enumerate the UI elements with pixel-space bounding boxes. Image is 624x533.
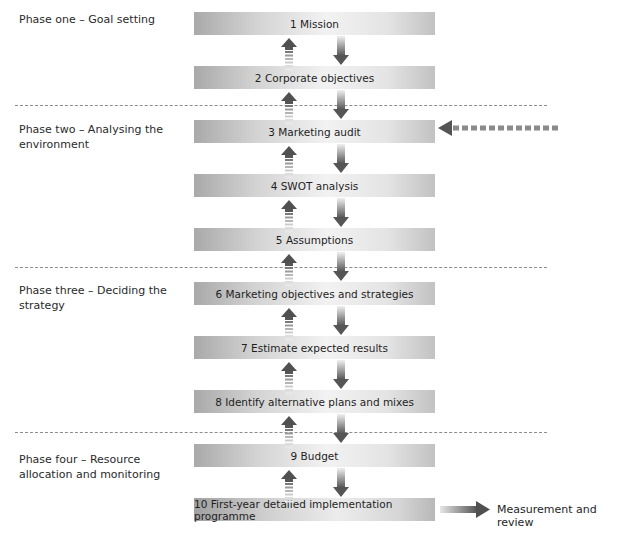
step-box-assumptions: 5 Assumptions	[194, 228, 435, 251]
down-arrow-icon	[333, 144, 349, 173]
step-label: 8 Identify alternative plans and mixes	[215, 396, 414, 408]
step-box-swot-analysis: 4 SWOT analysis	[194, 174, 435, 197]
phase-separator	[15, 432, 547, 433]
step-label: 3 Marketing audit	[268, 126, 360, 138]
step-box-marketing-audit: 3 Marketing audit	[194, 120, 435, 143]
down-arrow-icon	[333, 414, 349, 443]
step-label: 5 Assumptions	[276, 234, 353, 246]
step-box-marketing-objectives: 6 Marketing objectives and strategies	[194, 282, 435, 305]
phase-label-two: Phase two – Analysing the environment	[19, 122, 169, 152]
step-label: 7 Estimate expected results	[241, 342, 388, 354]
down-arrow-icon	[333, 306, 349, 335]
phase-separator	[15, 105, 547, 106]
feedback-arrowhead-icon	[438, 120, 452, 136]
step-box-implementation-programme: 10 First-year detailed implementation pr…	[194, 498, 435, 521]
output-arrow-shaft	[440, 506, 478, 513]
step-label: 9 Budget	[291, 450, 339, 462]
phase-label-one: Phase one – Goal setting	[19, 12, 189, 27]
down-arrow-icon	[333, 198, 349, 227]
phase-label-three: Phase three – Deciding the strategy	[19, 283, 169, 313]
phase-separator	[15, 267, 547, 268]
step-label: 6 Marketing objectives and strategies	[216, 288, 414, 300]
step-box-budget: 9 Budget	[194, 444, 435, 467]
down-arrow-icon	[333, 360, 349, 389]
step-box-estimate-results: 7 Estimate expected results	[194, 336, 435, 359]
step-box-alternative-plans: 8 Identify alternative plans and mixes	[194, 390, 435, 413]
step-label: 4 SWOT analysis	[271, 180, 359, 192]
step-label: 10 First-year detailed implementation pr…	[194, 498, 435, 522]
step-label: 1 Mission	[290, 18, 339, 30]
phase-label-four: Phase four – Resource allocation and mon…	[19, 452, 189, 482]
step-box-mission: 1 Mission	[194, 12, 435, 35]
step-label: 2 Corporate objectives	[255, 72, 374, 84]
output-arrowhead-icon	[476, 501, 490, 518]
output-label-measurement-review: Measurement and review	[497, 503, 624, 529]
down-arrow-icon	[333, 468, 349, 497]
down-arrow-icon	[333, 36, 349, 65]
step-box-corporate-objectives: 2 Corporate objectives	[194, 66, 435, 89]
